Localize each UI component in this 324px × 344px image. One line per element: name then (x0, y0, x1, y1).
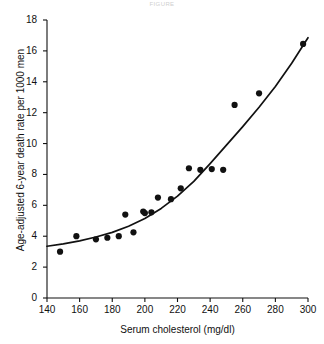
y-tick-label: 10 (15, 139, 37, 149)
data-point (300, 41, 306, 47)
x-tick-label: 180 (97, 305, 127, 315)
data-point (93, 236, 99, 242)
y-tick-label: 6 (15, 200, 37, 210)
data-point (197, 167, 203, 173)
y-tick-label: 14 (15, 77, 37, 87)
data-point (186, 165, 192, 171)
data-point (209, 166, 215, 172)
x-tick-label: 140 (32, 305, 62, 315)
fitted-curve-group (47, 38, 308, 247)
tick-marks-group (43, 20, 308, 302)
x-tick-label: 200 (130, 305, 160, 315)
data-point (231, 102, 237, 108)
data-point (116, 233, 122, 239)
fitted-curve (47, 38, 308, 247)
y-tick-label: 18 (15, 15, 37, 25)
x-tick-label: 220 (163, 305, 193, 315)
data-point (178, 185, 184, 191)
y-tick-label: 8 (15, 169, 37, 179)
x-tick-label: 260 (228, 305, 258, 315)
data-point (73, 233, 79, 239)
data-point (148, 209, 154, 215)
data-points-group (57, 41, 306, 255)
y-tick-label: 0 (15, 293, 37, 303)
data-point (256, 90, 262, 96)
data-point (142, 210, 148, 216)
scatter-plot-canvas (0, 0, 324, 344)
y-tick-label: 2 (15, 262, 37, 272)
data-point (104, 235, 110, 241)
y-tick-label: 12 (15, 108, 37, 118)
data-point (155, 195, 161, 201)
axes-group (47, 20, 308, 298)
data-point (168, 196, 174, 202)
data-point (130, 229, 136, 235)
y-tick-label: 4 (15, 231, 37, 241)
x-tick-label: 280 (260, 305, 290, 315)
y-tick-label: 16 (15, 46, 37, 56)
data-point (57, 249, 63, 255)
figure-panel: FIGURE Age-adjusted 6-year death rate pe… (0, 0, 324, 344)
data-point (122, 212, 128, 218)
x-tick-label: 160 (65, 305, 95, 315)
x-tick-label: 300 (293, 305, 323, 315)
x-tick-label: 240 (195, 305, 225, 315)
data-point (220, 167, 226, 173)
